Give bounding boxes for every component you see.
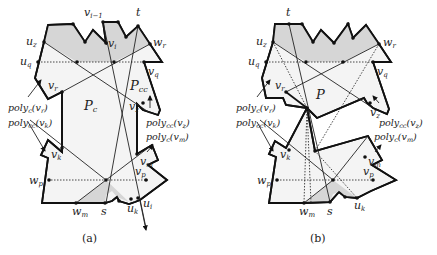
label-s-b: s: [327, 205, 333, 218]
panel-b: t uz wr uq vq vr P vz polyc(vr) polycc(v…: [236, 6, 423, 245]
caption-b: (b): [310, 232, 326, 245]
annot-poly-c-vm-b: polyc(vm): [374, 131, 417, 144]
panel-a: vi−1 t uz vi wr uq vq vr Pcc Pc vz polyc…: [8, 6, 190, 245]
label-v-q-b: vq: [377, 65, 388, 79]
label-u-q-b: uq: [248, 55, 260, 69]
annot-poly-cc-vz-b: polycc(vz): [379, 117, 423, 130]
label-u-z-b: uz: [256, 35, 267, 49]
annot-poly-c-vr-b: polyc(vr): [236, 102, 276, 115]
label-w-r-b: wr: [383, 36, 396, 50]
label-u-k-b: uk: [354, 199, 365, 213]
label-w-p-b: wp: [257, 174, 271, 188]
annot-poly-cc-vz: polycc(vz): [146, 117, 190, 130]
annot-poly-c-vr: polyc(vr): [8, 102, 48, 115]
label-v-i-minus-1: vi−1: [84, 6, 103, 20]
annot-poly-c-vm: polyc(vm): [146, 131, 189, 144]
label-u-i: ui: [143, 197, 152, 211]
annot-poly-cc-vk-b: polycc(vk): [236, 117, 281, 130]
diagram-canvas: vi−1 t uz vi wr uq vq vr Pcc Pc vz polyc…: [0, 0, 437, 255]
label-s: s: [101, 205, 107, 218]
label-region-p-b: P: [315, 87, 325, 102]
label-u-q: uq: [20, 55, 32, 69]
figure: vi−1 t uz vi wr uq vq vr Pcc Pc vz polyc…: [0, 0, 437, 255]
label-w-r: wr: [153, 36, 166, 50]
label-t-b: t: [286, 6, 291, 19]
annot-poly-cc-vk: polycc(vk): [8, 117, 53, 130]
label-u-k: uk: [127, 202, 138, 216]
label-v-q: vq: [148, 65, 159, 79]
label-w-m: wm: [72, 205, 88, 219]
caption-a: (a): [82, 232, 97, 245]
label-t: t: [136, 6, 141, 19]
label-w-p: wp: [29, 174, 43, 188]
arrow-poly-c-vr: [28, 80, 41, 97]
label-w-m-b: wm: [299, 205, 315, 219]
label-u-z: uz: [26, 35, 37, 49]
